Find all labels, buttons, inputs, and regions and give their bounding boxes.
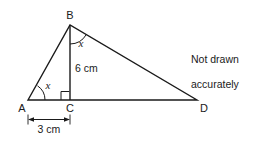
measurement-label-base: 3 cm bbox=[38, 123, 61, 135]
vertex-label-a: A bbox=[18, 102, 26, 114]
dimension-arrowhead-right bbox=[64, 117, 70, 122]
geometry-figure: B A C D x x 6 cm 3 cm Not drawn accurate… bbox=[0, 0, 262, 141]
vertex-label-c: C bbox=[66, 102, 74, 114]
dimension-arrowhead-left bbox=[28, 117, 34, 122]
angle-arc-at-a bbox=[38, 86, 46, 100]
measurement-label-altitude: 6 cm bbox=[75, 62, 98, 74]
angle-label-at-a: x bbox=[45, 79, 51, 91]
triangle-abd-outline bbox=[28, 25, 197, 100]
vertex-label-d: D bbox=[200, 102, 208, 114]
angle-label-at-b: x bbox=[78, 37, 84, 49]
note-line-1: Not drawn bbox=[191, 53, 261, 66]
right-angle-marker-at-c bbox=[61, 92, 69, 101]
note-line-2: accurately bbox=[191, 78, 261, 91]
vertex-label-b: B bbox=[66, 9, 73, 21]
not-drawn-accurately-note: Not drawn accurately bbox=[191, 40, 261, 103]
